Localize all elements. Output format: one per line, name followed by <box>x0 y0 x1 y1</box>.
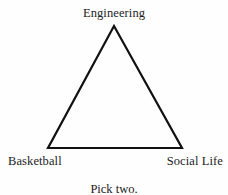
figure-caption: Pick two. <box>0 183 228 195</box>
vertex-label-top: Engineering <box>0 7 228 20</box>
vertex-label-bottom-left: Basketball <box>8 155 62 168</box>
vertex-label-bottom-right: Social Life <box>167 155 223 168</box>
tradeoff-triangle-figure: Engineering Basketball Social Life Pick … <box>0 0 228 195</box>
triangle-outline <box>48 26 182 148</box>
